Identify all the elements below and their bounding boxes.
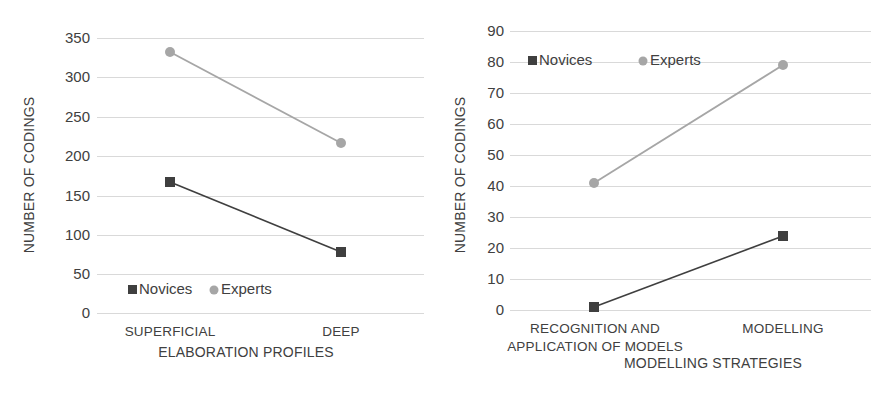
right-series-novices xyxy=(589,231,788,312)
figure-two-line-charts: NUMBER OF CODINGS 350 300 250 200 150 10… xyxy=(0,0,894,394)
right-y-tick-10: 10 xyxy=(487,270,504,287)
right-y-tick-20: 20 xyxy=(487,239,504,256)
right-y-tick-70: 70 xyxy=(487,84,504,101)
right-chart-svg: NUMBER OF CODINGS 90 80 70 60 50 40 30 2… xyxy=(447,0,894,394)
right-gridlines xyxy=(510,31,871,310)
left-x-tick-superficial: SUPERFICIAL xyxy=(125,324,216,339)
right-novices-point-recognition xyxy=(589,302,599,312)
right-y-tick-0: 0 xyxy=(496,301,504,318)
right-legend-label-novices: Novices xyxy=(539,51,592,68)
right-experts-point-recognition xyxy=(589,178,599,188)
left-series-novices xyxy=(165,177,346,257)
left-y-tick-150: 150 xyxy=(65,187,90,204)
right-legend-label-experts: Experts xyxy=(650,51,701,68)
right-x-tick-recognition-line1: RECOGNITION AND xyxy=(530,321,660,336)
left-chart-svg: NUMBER OF CODINGS 350 300 250 200 150 10… xyxy=(0,0,447,394)
right-x-tick-recognition-line2: APPLICATION OF MODELS xyxy=(507,339,683,354)
left-legend-marker-experts xyxy=(210,286,219,295)
left-y-tick-350: 350 xyxy=(65,29,90,46)
left-x-tick-deep: DEEP xyxy=(322,324,360,339)
left-novices-point-deep xyxy=(336,247,346,257)
right-y-tick-80: 80 xyxy=(487,53,504,70)
right-y-tick-60: 60 xyxy=(487,115,504,132)
left-novices-point-superficial xyxy=(165,177,175,187)
left-gridlines xyxy=(97,38,424,313)
left-legend-label-novices: Novices xyxy=(139,280,192,297)
left-experts-point-superficial xyxy=(165,47,175,57)
left-y-tick-300: 300 xyxy=(65,68,90,85)
left-legend-marker-novices xyxy=(128,285,137,294)
right-y-tick-50: 50 xyxy=(487,146,504,163)
right-y-axis-title: NUMBER OF CODINGS xyxy=(452,97,468,254)
right-legend-marker-novices xyxy=(528,56,537,65)
left-y-tick-50: 50 xyxy=(73,265,90,282)
right-y-tick-90: 90 xyxy=(487,22,504,39)
left-x-axis-title: ELABORATION PROFILES xyxy=(158,344,334,360)
left-y-tick-200: 200 xyxy=(65,147,90,164)
right-y-tick-40: 40 xyxy=(487,177,504,194)
left-series-experts xyxy=(165,47,346,148)
right-experts-point-modelling xyxy=(778,60,788,70)
left-legend-label-experts: Experts xyxy=(221,280,272,297)
right-novices-point-modelling xyxy=(778,231,788,241)
left-y-axis-title: NUMBER OF CODINGS xyxy=(21,97,37,254)
right-legend-marker-experts xyxy=(639,57,648,66)
right-legend: Novices Experts xyxy=(528,51,701,68)
right-x-tick-modelling: MODELLING xyxy=(742,321,823,336)
right-x-axis-title: MODELLING STRATEGIES xyxy=(624,355,802,371)
left-legend: Novices Experts xyxy=(128,280,272,297)
right-y-tick-30: 30 xyxy=(487,208,504,225)
left-experts-point-deep xyxy=(336,138,346,148)
chart-panel-modelling-strategies: NUMBER OF CODINGS 90 80 70 60 50 40 30 2… xyxy=(447,0,894,394)
left-y-tick-100: 100 xyxy=(65,226,90,243)
chart-panel-elaboration-profiles: NUMBER OF CODINGS 350 300 250 200 150 10… xyxy=(0,0,447,394)
left-y-tick-250: 250 xyxy=(65,108,90,125)
left-y-tick-0: 0 xyxy=(82,304,90,321)
